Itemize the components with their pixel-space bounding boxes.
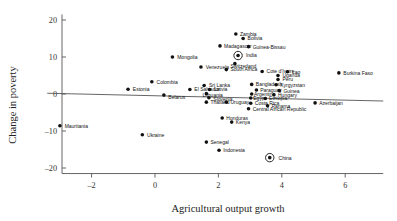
point-marker: [171, 55, 175, 59]
point-marker: [188, 88, 192, 92]
point-label: Senegal: [210, 139, 228, 145]
point-marker: [247, 45, 251, 49]
chart-canvas: 20100–10–20–20246 MauritaniaEstoniaUkrai…: [0, 0, 397, 221]
data-point: Central African Republic: [247, 106, 307, 112]
point-label: Ukraine: [147, 132, 164, 138]
point-marker: [249, 101, 253, 105]
point-marker: [313, 101, 317, 105]
point-marker: [150, 80, 154, 84]
data-point: Estonia: [126, 86, 149, 92]
data-points: MauritaniaEstoniaUkraineColombiaMongolia…: [58, 31, 373, 162]
point-marker: [199, 65, 203, 69]
scatter-plot-figure: 20100–10–20–20246 MauritaniaEstoniaUkrai…: [0, 0, 397, 221]
data-point: Belarus: [162, 93, 186, 100]
point-marker: [249, 96, 253, 100]
data-point: Guinea-Bissau: [247, 44, 286, 50]
point-marker: [126, 87, 130, 91]
data-point: Senegal: [205, 139, 229, 145]
point-marker: [225, 68, 229, 72]
point-marker: [241, 37, 245, 41]
x-axis-title: Agricultural output growth: [171, 203, 285, 214]
point-label: Indonesia: [223, 147, 245, 153]
y-tick-label: –10: [44, 127, 57, 136]
point-marker: [218, 44, 222, 48]
y-tick-label: 0: [53, 90, 57, 99]
point-marker: [268, 156, 272, 160]
point-label: China: [279, 155, 292, 161]
y-tick-label: –20: [44, 164, 57, 173]
point-label: Bolivia: [248, 35, 263, 41]
data-point: Mongolia: [171, 54, 198, 60]
point-marker: [236, 54, 240, 58]
x-tick-label: 4: [280, 181, 284, 190]
point-label: Azerbaijan: [319, 100, 343, 106]
point-marker: [205, 100, 209, 104]
point-label: Mauritania: [65, 123, 89, 129]
point-label: Mongolia: [177, 54, 198, 60]
data-point: China: [266, 153, 292, 161]
data-point: Indonesia: [217, 147, 245, 153]
data-point: Burkina Faso: [337, 70, 373, 76]
data-point: Mauritania: [58, 123, 88, 129]
y-tick-label: 20: [49, 16, 57, 25]
data-point: Madagascar: [218, 43, 252, 49]
point-marker: [141, 133, 145, 137]
point-label: South Africa: [230, 66, 257, 72]
data-point: Colombia: [150, 79, 178, 85]
point-marker: [208, 88, 212, 92]
point-label: Colombia: [157, 79, 178, 85]
point-label: Guinea-Bissau: [253, 44, 286, 50]
y-axis-title: Change in poverty: [7, 65, 18, 143]
point-marker: [250, 83, 254, 87]
point-marker: [217, 148, 221, 152]
x-tick-label: 0: [153, 181, 157, 190]
point-marker: [337, 71, 341, 75]
point-marker: [58, 124, 62, 128]
point-marker: [225, 100, 229, 104]
data-point: Ukraine: [141, 132, 165, 138]
data-point: South Africa: [225, 66, 258, 72]
x-tick-label: –2: [87, 181, 96, 190]
point-marker: [205, 140, 209, 144]
point-marker: [162, 93, 166, 97]
point-marker: [260, 70, 264, 74]
point-label: Kenya: [236, 119, 250, 125]
point-label: Central African Republic: [253, 106, 307, 112]
point-label: Estonia: [133, 86, 150, 92]
point-marker: [234, 32, 238, 36]
point-label: Burkina Faso: [343, 70, 373, 76]
point-marker: [276, 74, 280, 78]
point-label: Belarus: [168, 94, 185, 100]
y-tick-label: 10: [49, 53, 57, 62]
point-marker: [220, 116, 224, 120]
point-label: India: [246, 52, 257, 58]
data-point: Azerbaijan: [313, 100, 343, 106]
point-label: Uruguay: [230, 99, 249, 105]
x-tick-label: 6: [343, 181, 347, 190]
point-marker: [230, 120, 234, 124]
data-point: India: [234, 51, 257, 59]
point-marker: [202, 84, 206, 88]
x-tick-label: 2: [216, 181, 220, 190]
point-marker: [247, 107, 251, 111]
